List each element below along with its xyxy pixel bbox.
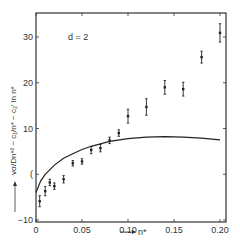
y-tick-label: 20 xyxy=(23,78,33,88)
point-marker xyxy=(44,190,46,192)
point-marker xyxy=(200,56,202,58)
point-marker xyxy=(72,162,74,164)
data-point xyxy=(90,146,92,153)
data-points xyxy=(38,24,221,207)
x-axis-label: n* xyxy=(138,227,147,237)
data-point xyxy=(145,99,147,115)
point-marker xyxy=(118,132,120,134)
point-marker xyxy=(127,115,129,117)
point-marker xyxy=(53,185,55,187)
plot-frame xyxy=(36,13,226,222)
data-point xyxy=(49,179,51,185)
chart: −10(102030 00.050.100.150.20 d = 2 n* vσ… xyxy=(0,0,240,245)
point-marker xyxy=(81,160,83,162)
data-point xyxy=(219,24,221,42)
point-marker xyxy=(219,32,221,34)
point-marker xyxy=(62,178,64,180)
y-tick-label: −10 xyxy=(18,215,33,225)
point-marker xyxy=(49,181,51,183)
data-point xyxy=(108,137,110,143)
y-tick-label: 10 xyxy=(23,124,33,134)
data-point xyxy=(127,109,129,123)
data-point xyxy=(164,80,166,94)
data-point xyxy=(72,161,74,166)
point-marker xyxy=(182,88,184,90)
theory-curve xyxy=(36,137,220,193)
y-tick-label: ( xyxy=(30,169,33,179)
data-point xyxy=(44,187,46,196)
x-tick-label: 0.20 xyxy=(211,225,229,235)
data-point xyxy=(118,130,120,136)
annotation-d: d = 2 xyxy=(68,32,88,42)
x-tick-label: 0.05 xyxy=(73,225,91,235)
y-axis-arrowhead-icon xyxy=(13,181,17,186)
data-point xyxy=(62,176,64,183)
point-marker xyxy=(145,106,147,108)
data-point xyxy=(200,51,202,63)
point-marker xyxy=(38,200,40,202)
data-point xyxy=(81,159,83,164)
y-axis-label-group: vσ/Dn*² − c₁/n* − c₂′ ln n* xyxy=(9,86,18,212)
point-marker xyxy=(108,139,110,141)
data-point xyxy=(99,145,101,152)
data-point xyxy=(38,196,40,207)
data-point xyxy=(182,82,184,96)
y-tick-label: 30 xyxy=(23,32,33,42)
x-tick-label: 0.10 xyxy=(119,225,137,235)
x-tick-label: 0 xyxy=(33,225,38,235)
data-point xyxy=(53,183,55,189)
point-marker xyxy=(90,149,92,151)
y-axis-label: vσ/Dn*² − c₁/n* − c₂′ ln n* xyxy=(9,86,18,175)
point-marker xyxy=(164,86,166,88)
y-axis: −10(102030 xyxy=(18,32,226,225)
point-marker xyxy=(99,147,101,149)
x-tick-label: 0.15 xyxy=(165,225,183,235)
x-axis: 00.050.100.150.20 xyxy=(33,13,228,235)
